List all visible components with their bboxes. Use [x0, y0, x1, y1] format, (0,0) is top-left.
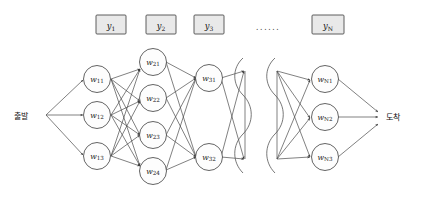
- diagram-canvas: y1 y2 y3 ...... yN w11: [0, 0, 424, 209]
- node-wN3[interactable]: wN3: [312, 144, 339, 171]
- node-w13[interactable]: w13: [84, 143, 111, 170]
- edges-layer1-layer2: [111, 69, 140, 166]
- node-w12[interactable]: w12: [84, 102, 111, 129]
- edges-break-layerN: [277, 71, 310, 159]
- neural-network-diagram: y1 y2 y3 ...... yN w11: [0, 0, 424, 209]
- edges-layer3-break: [221, 71, 245, 159]
- node-wN1[interactable]: wN1: [312, 66, 339, 93]
- input-edges: [46, 80, 83, 155]
- end-label: 도착: [386, 113, 401, 122]
- output-boxes-ellipsis: ......: [256, 22, 280, 32]
- node-w23[interactable]: w23: [140, 122, 167, 149]
- edges-layer2-layer3: [166, 62, 196, 170]
- omitted-layers-break-symbol: [235, 58, 284, 173]
- output-box-y3[interactable]: y3: [194, 15, 224, 34]
- node-w22[interactable]: w22: [140, 85, 167, 112]
- output-edges: [338, 79, 378, 157]
- output-box-yN[interactable]: yN: [312, 15, 344, 34]
- node-w32[interactable]: w32: [196, 144, 223, 171]
- node-wN2[interactable]: wN2: [312, 104, 339, 131]
- output-box-y2[interactable]: y2: [146, 15, 176, 34]
- node-w24[interactable]: w24: [140, 158, 167, 185]
- output-box-y1[interactable]: y1: [96, 15, 126, 34]
- node-w31[interactable]: w31: [196, 65, 223, 92]
- node-w11[interactable]: w11: [84, 66, 111, 93]
- start-label: 출발: [14, 111, 29, 121]
- node-w21[interactable]: w21: [140, 49, 167, 76]
